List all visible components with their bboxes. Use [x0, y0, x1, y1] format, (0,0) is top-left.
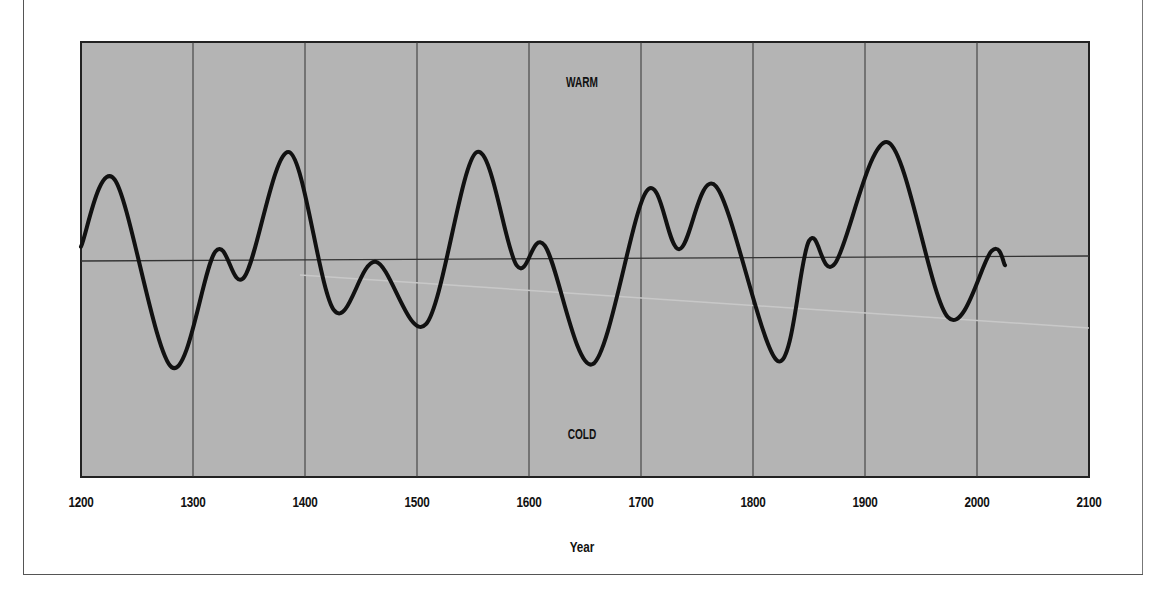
x-tick-label-1600: 1600	[516, 493, 541, 510]
x-tick-label-2100: 2100	[1076, 493, 1101, 510]
x-axis-title: Year	[570, 538, 595, 555]
cold-label: COLD	[568, 426, 597, 442]
x-tick-label-2000: 2000	[964, 493, 989, 510]
x-tick-label-1300: 1300	[180, 493, 205, 510]
plot-background	[81, 42, 1089, 477]
x-tick-label-1500: 1500	[404, 493, 429, 510]
x-tick-label-1800: 1800	[740, 493, 765, 510]
x-tick-label-1200: 1200	[68, 493, 93, 510]
x-tick-label-1900: 1900	[852, 493, 877, 510]
x-tick-label-1400: 1400	[292, 493, 317, 510]
warm-label: WARM	[566, 74, 598, 90]
x-tick-label-1700: 1700	[628, 493, 653, 510]
